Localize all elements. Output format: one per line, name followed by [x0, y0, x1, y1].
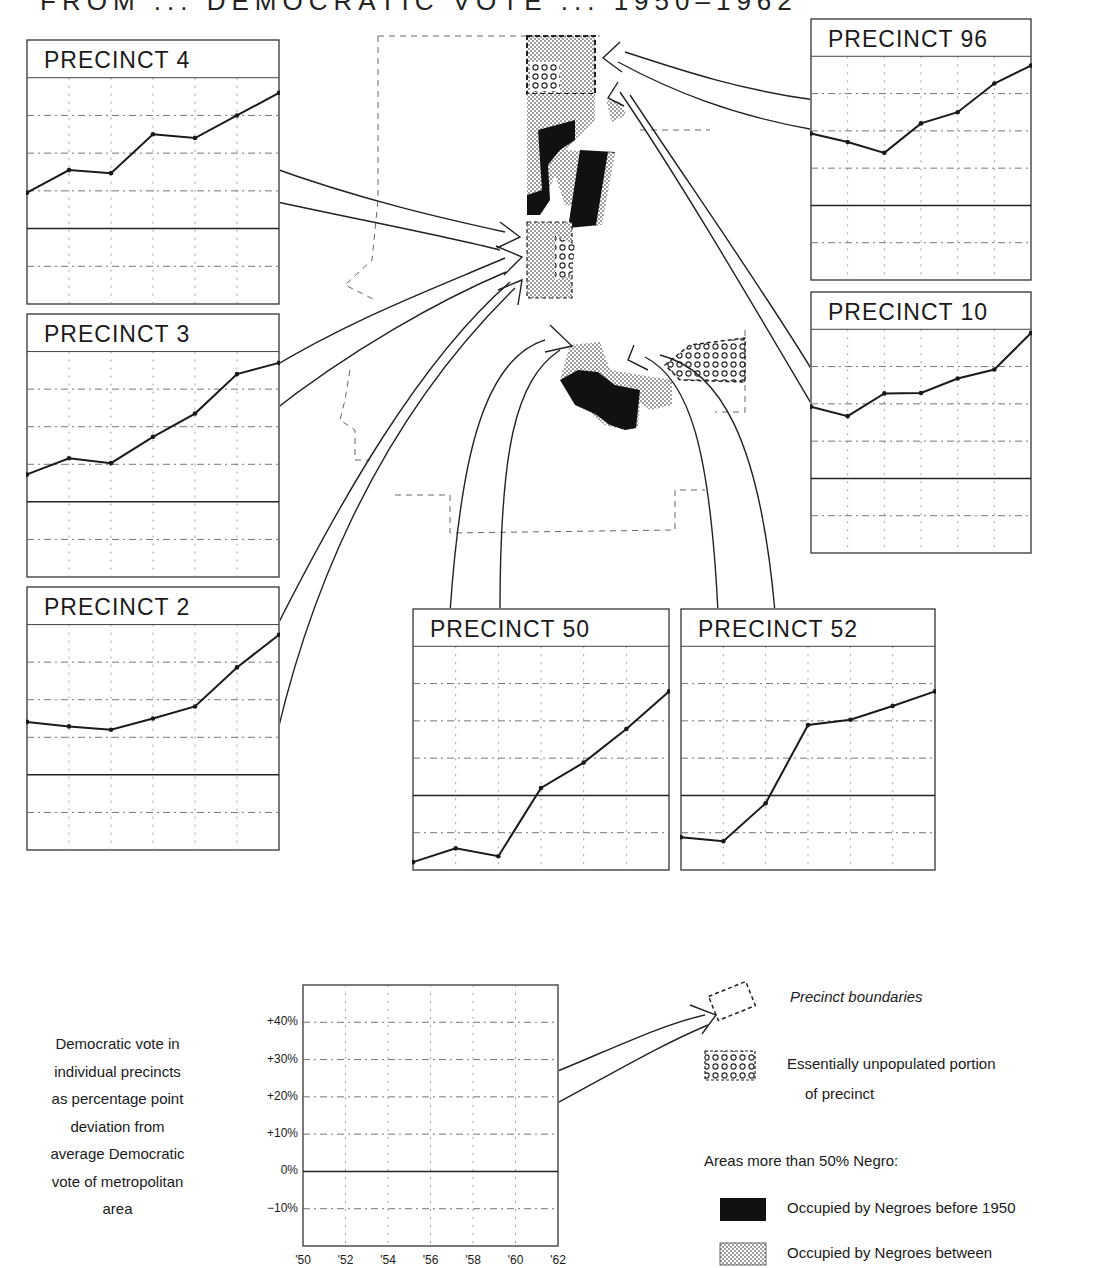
caption-line: as percentage point	[20, 1085, 215, 1113]
lower-precinct-cluster	[560, 338, 745, 430]
chart-p96: PRECINCT 96	[810, 18, 1032, 281]
chart-p10: PRECINCT 10	[810, 291, 1032, 554]
chart-title: PRECINCT 4	[44, 47, 190, 74]
caption-line: average Democratic	[20, 1140, 215, 1168]
y-tick-label: +40%	[250, 1014, 298, 1028]
chart-p4: PRECINCT 4	[26, 39, 280, 305]
unpopulated-swatch	[705, 1051, 755, 1080]
legend-symbols	[705, 981, 766, 1265]
y-tick-label: +10%	[250, 1126, 298, 1140]
y-tick-label: 0%	[250, 1163, 298, 1177]
chart-title: PRECINCT 2	[44, 594, 190, 621]
chart-title: PRECINCT 50	[430, 616, 590, 643]
y-tick-label: +30%	[250, 1052, 298, 1066]
chart-title: PRECINCT 10	[828, 299, 988, 326]
caption-line: vote of metropolitan	[20, 1168, 215, 1196]
x-tick-label: '50	[288, 1253, 318, 1267]
chart-title: PRECINCT 52	[698, 616, 858, 643]
x-tick-label: '60	[501, 1253, 531, 1267]
x-tick-label: '54	[373, 1253, 403, 1267]
legend-unpopulated-1: Essentially unpopulated portion	[787, 1055, 995, 1072]
legend-precinct-boundaries: Precinct boundaries	[790, 988, 923, 1005]
caption-line: deviation from	[20, 1113, 215, 1141]
x-tick-label: '56	[416, 1253, 446, 1267]
chart-p2: PRECINCT 2	[26, 586, 280, 851]
upper-precinct-cluster	[527, 36, 626, 298]
x-tick-label: '52	[331, 1253, 361, 1267]
legend-unpopulated-2: of precinct	[805, 1085, 874, 1102]
before-1950-swatch	[720, 1198, 766, 1221]
key-chart	[302, 984, 559, 1247]
figure: FROM ... DEMOCRATIC VOTE ... 1950–1962	[0, 0, 1113, 1268]
x-tick-label: '62	[543, 1253, 573, 1267]
caption-line: Democratic vote in	[20, 1030, 215, 1058]
axis-caption: Democratic vote in individual precincts …	[20, 1030, 215, 1223]
chart-p52: PRECINCT 52	[680, 608, 936, 871]
between-swatch	[720, 1243, 766, 1265]
y-tick-label: +20%	[250, 1089, 298, 1103]
chart-p50: PRECINCT 50	[412, 608, 670, 871]
chart-title: PRECINCT 3	[44, 321, 190, 348]
chart-title: PRECINCT 96	[828, 26, 988, 53]
caption-line: individual precincts	[20, 1058, 215, 1086]
y-tick-label: −10%	[250, 1201, 298, 1215]
legend-between: Occupied by Negroes between	[787, 1244, 992, 1261]
legend-areas-heading: Areas more than 50% Negro:	[704, 1152, 898, 1169]
precinct-boundary-swatch	[709, 981, 756, 1020]
legend-before-1950: Occupied by Negroes before 1950	[787, 1199, 1015, 1216]
chart-p3: PRECINCT 3	[26, 313, 280, 578]
x-tick-label: '58	[458, 1253, 488, 1267]
caption-line: area	[20, 1195, 215, 1223]
